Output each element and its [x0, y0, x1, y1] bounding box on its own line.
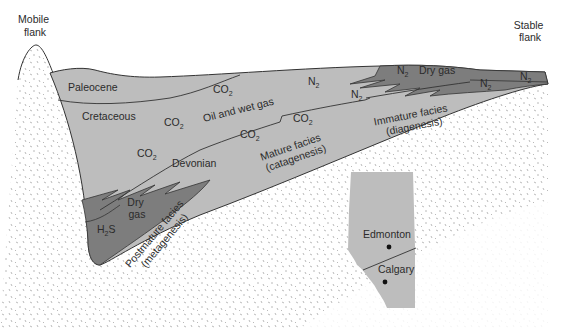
- devonian-label: Devonian: [172, 157, 217, 169]
- dry-gas-top-label: Dry gas: [419, 64, 455, 76]
- stable-flank-label: Stable flank: [514, 19, 547, 43]
- mobile-flank-label: Mobile flank: [18, 13, 52, 38]
- basin-cross-section-diagram: Mobile flank Stable flank Paleocene Cret…: [0, 0, 563, 328]
- edmonton-dot: [387, 245, 392, 250]
- calgary-label: Calgary: [378, 263, 415, 275]
- dry-gas-deep-label: Dry gas: [127, 196, 146, 220]
- edmonton-label: Edmonton: [363, 228, 411, 240]
- cretaceous-label: Cretaceous: [82, 110, 136, 122]
- paleocene-label: Paleocene: [68, 81, 118, 93]
- calgary-dot: [383, 280, 388, 285]
